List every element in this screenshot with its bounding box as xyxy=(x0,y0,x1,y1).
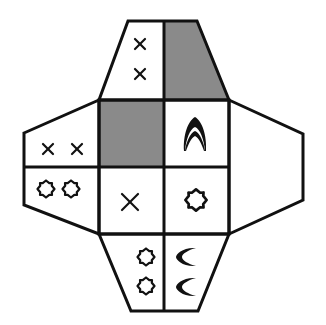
right-flap xyxy=(229,100,303,234)
x-icon xyxy=(72,144,82,154)
x-icon xyxy=(135,39,145,49)
cube-net-diagram xyxy=(0,0,326,325)
x-icon xyxy=(43,144,53,154)
shaded-face-top-right xyxy=(164,21,229,100)
octagram-icon xyxy=(38,181,55,198)
shaded-face-center xyxy=(99,100,164,167)
x-icon xyxy=(122,194,138,210)
arch-icon xyxy=(184,117,206,151)
bottom-flap xyxy=(99,234,229,311)
crescent-icon xyxy=(176,278,196,296)
octagram-icon xyxy=(185,189,206,210)
crescent-icon xyxy=(176,248,196,266)
octagram-icon xyxy=(138,249,155,266)
octagram-icon xyxy=(63,181,80,198)
octagram-icon xyxy=(138,278,155,295)
left-flap xyxy=(24,100,99,234)
x-icon xyxy=(135,69,145,79)
